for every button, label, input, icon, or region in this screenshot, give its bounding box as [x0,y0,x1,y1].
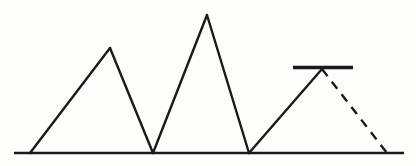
figure-container [0,0,416,166]
figure-background [0,0,416,166]
line-figure [0,0,416,166]
